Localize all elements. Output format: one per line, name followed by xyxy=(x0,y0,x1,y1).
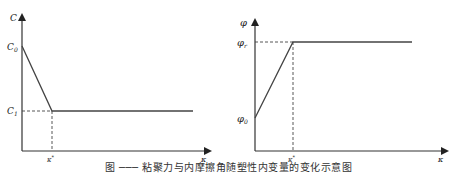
figure-canvas: C C0 C1 κ* κ φ φr φ0 κ* κ xyxy=(0,0,457,174)
tick-label-phi-r: φr xyxy=(237,37,248,49)
figure-caption: 图 ─── 粘聚力与内摩擦角随塑性内变量的变化示意图 xyxy=(0,159,457,174)
tick-label-c0: C0 xyxy=(7,42,18,53)
cohesion-chart: C C0 C1 κ* κ xyxy=(7,13,210,164)
cohesion-curve xyxy=(22,46,193,111)
tick-label-phi-0: φ0 xyxy=(237,113,248,125)
friction-angle-curve xyxy=(255,42,412,118)
tick-label-c1: C1 xyxy=(7,106,18,117)
friction-angle-chart: φ φr φ0 κ* κ xyxy=(237,17,447,164)
y-axis-label: C xyxy=(10,13,17,23)
y-axis-label: φ xyxy=(240,17,247,28)
